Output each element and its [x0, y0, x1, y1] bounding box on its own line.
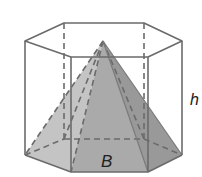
prism-pyramid-diagram: h B — [0, 0, 202, 177]
base-label: B — [101, 152, 112, 171]
height-label: h — [190, 91, 199, 108]
